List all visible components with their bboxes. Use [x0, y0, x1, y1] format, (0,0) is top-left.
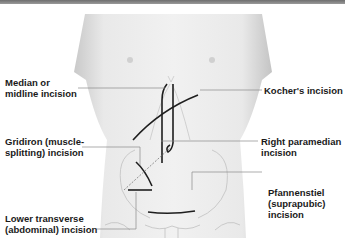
label-median-incision: Median or midline incision	[5, 77, 77, 99]
right-nipple	[209, 57, 215, 63]
label-lower-transverse-incision: Lower transverse (abdominal) incision	[5, 213, 97, 235]
label-kochers-incision: Kocher's incision	[264, 85, 343, 96]
left-nipple	[127, 57, 133, 63]
label-pfannenstiel-incision: Pfannenstiel (suprapubic) incision	[268, 187, 326, 220]
label-right-paramedian-incision: Right paramedian incision	[261, 136, 341, 158]
label-gridiron-incision: Gridiron (muscle- splitting) incision	[5, 136, 84, 158]
